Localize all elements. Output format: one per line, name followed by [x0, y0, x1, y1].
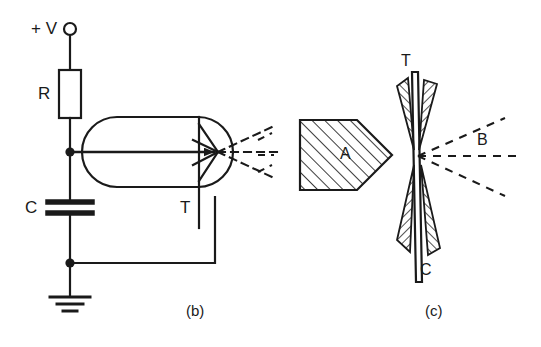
wedge-lower-left	[397, 165, 414, 252]
cathode-label: C	[420, 262, 432, 278]
foil-label: T	[401, 53, 411, 69]
wire-target-return	[70, 197, 215, 263]
figure-canvas	[0, 0, 541, 347]
caption-b: (b)	[186, 303, 204, 318]
resistor-label: R	[38, 85, 50, 102]
caption-c: (c)	[425, 303, 443, 318]
output-beam-rays	[418, 118, 520, 196]
resistor-body	[59, 70, 81, 118]
capacitor-label: C	[25, 199, 37, 216]
wedge-upper-right	[419, 80, 437, 150]
supply-terminal-circle	[64, 23, 76, 35]
target-label-b: T	[180, 199, 190, 216]
panel-c-detail	[258, 72, 520, 282]
panel-b-circuit	[48, 23, 278, 311]
supply-label: + V	[31, 20, 57, 37]
beam-label: B	[477, 132, 488, 148]
wedge-lower-right	[421, 165, 440, 255]
anode-label: A	[340, 146, 351, 162]
